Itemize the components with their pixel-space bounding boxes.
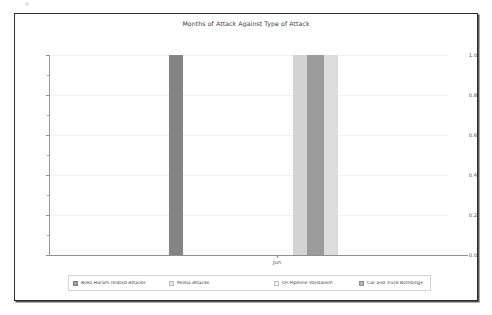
y-tick-minor-mark <box>47 155 49 156</box>
y-tick-mark-0-0 <box>46 255 49 256</box>
bar-hostage-taking <box>169 55 183 255</box>
y-tick-label-1-0: 1.0 <box>449 52 477 58</box>
bar-series-group <box>49 55 449 255</box>
legend-entry-oil-pipeline-vandalism[interactable]: Oil Pipeline Vandalism <box>274 281 359 286</box>
legend-swatch-icon <box>73 281 78 286</box>
chart-title: Months of Attack Against Type of Attack <box>15 20 477 27</box>
y-tick-label-0-6: 0.6 <box>449 132 477 138</box>
y-tick-minor-mark <box>47 115 49 116</box>
y-axis-line <box>49 55 50 255</box>
y-tick-label-0-4: 0.4 <box>449 172 477 178</box>
y-tick-minor-mark <box>47 195 49 196</box>
y-tick-label-0-0: 0.0 <box>449 252 477 258</box>
y-tick-minor-mark <box>47 75 49 76</box>
y-tick-label-0-8: 0.8 <box>449 92 477 98</box>
bar-ethnic-violence <box>324 55 338 255</box>
legend-entry-car-and-truck-bombings[interactable]: Car and Truck Bombings <box>359 281 429 286</box>
legend-grid: Boko Haram related AttacksMilitia Attack… <box>73 279 427 288</box>
legend-entry-boko-haram-related-attacks[interactable]: Boko Haram related Attacks <box>73 281 169 286</box>
legend-label: Militia Attacks <box>177 281 209 286</box>
screenshot-page: Months of Attack Against Type of Attack … <box>0 0 492 315</box>
legend-swatch-icon <box>274 281 279 286</box>
scan-artifact-speck <box>25 2 29 6</box>
y-tick-mark-1-0 <box>46 55 49 56</box>
legend-entry-militia-attacks[interactable]: Militia Attacks <box>169 281 274 286</box>
bar-secession <box>293 55 307 255</box>
y-tick-minor-mark <box>47 235 49 236</box>
legend-label: Boko Haram related Attacks <box>81 281 145 286</box>
x-tick-mark <box>277 255 278 258</box>
x-axis-line <box>49 255 468 256</box>
legend-swatch-icon <box>169 281 174 286</box>
legend-label: Oil Pipeline Vandalism <box>282 281 333 286</box>
y-tick-mark-0-6 <box>46 135 49 136</box>
x-tick-label-jun: Jun <box>257 259 297 265</box>
y-tick-label-0-2: 0.2 <box>449 212 477 218</box>
plot-area <box>49 55 449 255</box>
chart-figure-frame: Months of Attack Against Type of Attack … <box>14 13 478 301</box>
legend-label: Car and Truck Bombings <box>367 281 423 286</box>
chart-legend: Boko Haram related AttacksMilitia Attack… <box>68 275 431 291</box>
bar-fulani-herdsman-attacks <box>307 55 324 255</box>
y-tick-mark-0-8 <box>46 95 49 96</box>
y-tick-mark-0-2 <box>46 215 49 216</box>
legend-swatch-icon <box>359 281 364 286</box>
y-tick-mark-0-4 <box>46 175 49 176</box>
